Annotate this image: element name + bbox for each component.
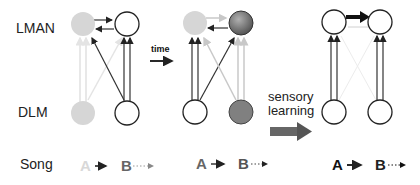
lman-right-node — [229, 11, 253, 35]
sensory-learning-label: sensory learning — [268, 90, 314, 118]
panel-stage-1 — [71, 12, 139, 125]
lman-left-node — [71, 12, 95, 36]
song-a-stage-1: A — [80, 157, 91, 174]
circuit-diagram — [0, 0, 420, 185]
sensory-label-line1: sensory — [268, 90, 314, 104]
song-b-stage-2: B — [238, 155, 249, 172]
dlm-label: DLM — [18, 104, 48, 120]
dlm-left-node — [71, 101, 95, 125]
song-b-stage-1: B — [121, 157, 132, 174]
lman-left-node — [183, 11, 207, 35]
time-label: time — [151, 44, 170, 54]
song-b-stage-3: B — [375, 156, 386, 173]
lman-label: LMAN — [16, 20, 55, 36]
dlm-left-node — [322, 100, 346, 124]
lman-right-node — [368, 10, 392, 34]
dlm-right-node — [368, 100, 392, 124]
lman-right-node — [115, 12, 139, 36]
song-a-stage-2: A — [196, 155, 207, 172]
song-a-stage-3: A — [332, 156, 343, 173]
song-arrows — [95, 161, 406, 169]
dlm-left-node — [183, 100, 207, 124]
dlm-right-node — [115, 101, 139, 125]
panel-stage-2 — [183, 11, 253, 124]
sensory-label-line2: learning — [268, 104, 314, 118]
dlm-right-node — [229, 100, 253, 124]
sensory-learning-arrow — [270, 122, 312, 141]
panel-stage-3 — [322, 10, 392, 124]
lman-left-node — [322, 10, 346, 34]
song-label: Song — [20, 156, 53, 172]
